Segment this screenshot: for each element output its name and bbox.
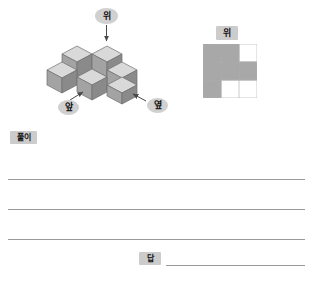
solution-label-badge: 풀이 <box>10 131 37 144</box>
grid-cell-filled <box>203 62 221 80</box>
arrow-to-front-face <box>70 92 83 100</box>
writing-rule-line <box>8 239 305 240</box>
solid-figure-illustration <box>0 0 313 140</box>
answer-blank-line <box>166 265 305 266</box>
grid-cell-filled <box>203 44 221 62</box>
grid-title-badge: 위 <box>216 26 238 40</box>
grid-cells <box>203 44 257 98</box>
grid-cell-filled <box>239 62 257 80</box>
grid-cell-filled <box>203 80 221 98</box>
writing-rule-line <box>8 209 305 210</box>
label-top-view-badge: 위 <box>95 8 118 24</box>
grid-cell-filled <box>221 62 239 80</box>
answer-label-badge: 답 <box>139 252 161 265</box>
label-side-view-badge: 옆 <box>147 98 168 113</box>
writing-rule-line <box>8 179 305 180</box>
top-view-grid <box>203 44 257 98</box>
worksheet-page: 위 앞 옆 위 풀이 답 <box>0 0 313 283</box>
grid-cell-filled <box>221 44 239 62</box>
label-front-view-badge: 앞 <box>58 100 79 115</box>
arrow-to-side-face <box>133 94 146 101</box>
cube-solid <box>47 46 137 104</box>
